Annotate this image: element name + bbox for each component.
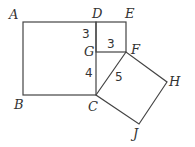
label-e: E bbox=[124, 6, 135, 21]
label-d: D bbox=[91, 6, 103, 21]
length-gc: 4 bbox=[85, 66, 93, 80]
label-c: C bbox=[88, 99, 98, 114]
label-j: J bbox=[130, 126, 139, 141]
label-g: G bbox=[84, 44, 94, 59]
length-cf: 5 bbox=[115, 70, 123, 84]
label-h: H bbox=[168, 74, 181, 89]
label-a: A bbox=[8, 7, 18, 22]
label-f: F bbox=[130, 42, 141, 57]
geometry-diagram: A B C D E F G H J 3 3 4 5 bbox=[0, 0, 195, 147]
length-dg: 3 bbox=[82, 27, 90, 41]
square-cfhj bbox=[96, 52, 167, 124]
label-b: B bbox=[13, 97, 24, 112]
length-gf: 3 bbox=[107, 37, 115, 51]
